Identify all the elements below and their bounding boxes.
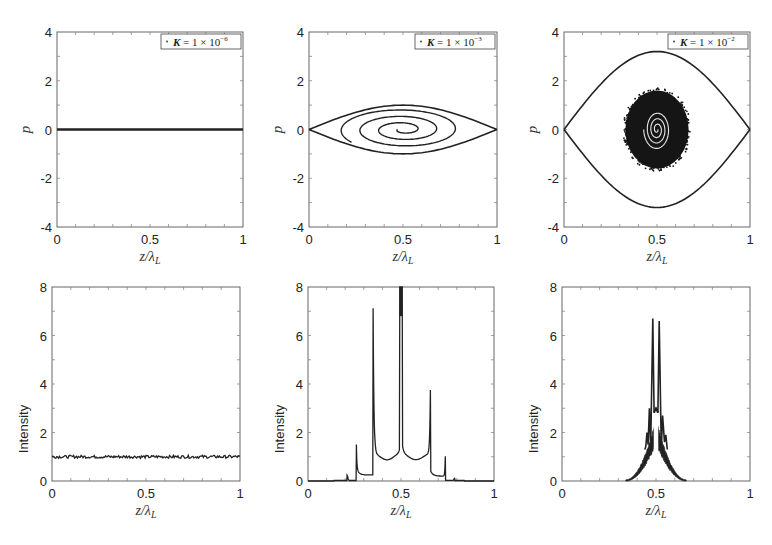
x-tick-label: 1 bbox=[746, 486, 753, 501]
figure: 00.51-4-2024z/λLpK = 1 × 10−600.51-4-202… bbox=[0, 0, 772, 545]
y-tick-label: 0 bbox=[297, 123, 304, 138]
x-tick-label: 1 bbox=[493, 232, 500, 247]
legend-marker-icon bbox=[166, 41, 168, 43]
y-tick-label: -2 bbox=[547, 171, 559, 186]
x-tick-label: 0 bbox=[48, 486, 55, 501]
y-axis-label: Intensity bbox=[526, 404, 541, 453]
y-tick-label: 0 bbox=[45, 123, 52, 138]
x-tick-label: 0.5 bbox=[392, 486, 410, 501]
panel-phase-k1e-2: 00.51-4-2024z/λLpK = 1 × 10−2 bbox=[524, 25, 754, 266]
x-tick-label: 0.5 bbox=[141, 232, 159, 247]
y-tick-label: 6 bbox=[550, 329, 557, 344]
y-tick-label: 8 bbox=[40, 280, 47, 295]
y-tick-label: -4 bbox=[40, 220, 52, 235]
x-tick-label: 0.5 bbox=[648, 232, 666, 247]
x-tick-label: 1 bbox=[239, 232, 246, 247]
legend: K = 1 × 10−2 bbox=[668, 34, 748, 49]
y-tick-label: 0 bbox=[40, 474, 47, 489]
panel-phase-k1e-3: 00.51-4-2024z/λLpK = 1 × 10−3 bbox=[269, 25, 501, 266]
legend: K = 1 × 10−3 bbox=[415, 34, 495, 49]
x-tick-label: 1 bbox=[236, 486, 243, 501]
y-axis-label: p bbox=[17, 125, 33, 134]
x-tick-label: 0 bbox=[558, 486, 565, 501]
x-tick-label: 1 bbox=[490, 486, 497, 501]
x-tick-label: 0.5 bbox=[647, 486, 665, 501]
panel-phase-k1e-6: 00.51-4-2024z/λLpK = 1 × 10−6 bbox=[17, 25, 247, 266]
x-axis-label: z/λL bbox=[646, 249, 668, 266]
y-tick-label: 2 bbox=[297, 74, 304, 89]
y-tick-label: 6 bbox=[40, 329, 47, 344]
y-tick-label: -2 bbox=[292, 171, 304, 186]
y-tick-label: -2 bbox=[40, 171, 52, 186]
y-tick-label: 4 bbox=[40, 377, 47, 392]
panel-intensity-k1e-6: 00.5102468z/λLIntensity bbox=[16, 280, 244, 520]
plot-frame bbox=[562, 287, 750, 481]
legend-marker-icon bbox=[673, 41, 675, 43]
panel-intensity-k1e-3: 00.5102468z/λLIntensity bbox=[272, 280, 498, 520]
y-tick-label: 4 bbox=[45, 25, 52, 40]
svg-text:K = 1 × 10−6: K = 1 × 10−6 bbox=[172, 35, 228, 48]
y-tick-label: 4 bbox=[297, 25, 304, 40]
x-tick-label: 0.5 bbox=[394, 232, 412, 247]
y-tick-label: 0 bbox=[550, 474, 557, 489]
x-tick-label: 0 bbox=[560, 232, 567, 247]
x-tick-label: 0.5 bbox=[137, 486, 155, 501]
x-tick-label: 0 bbox=[305, 232, 312, 247]
plot-frame bbox=[309, 32, 497, 227]
y-axis-label: p bbox=[269, 125, 285, 134]
y-tick-label: 4 bbox=[550, 377, 557, 392]
x-axis-label: z/λL bbox=[139, 249, 161, 266]
y-tick-label: -4 bbox=[547, 220, 559, 235]
x-tick-label: 1 bbox=[746, 232, 753, 247]
x-tick-label: 0 bbox=[304, 486, 311, 501]
y-tick-label: 2 bbox=[45, 74, 52, 89]
y-tick-label: 2 bbox=[40, 426, 47, 441]
y-tick-label: 6 bbox=[296, 329, 303, 344]
svg-text:K = 1 × 10−3: K = 1 × 10−3 bbox=[426, 35, 482, 48]
y-tick-label: 4 bbox=[552, 25, 559, 40]
y-tick-label: 8 bbox=[550, 280, 557, 295]
y-axis-label: p bbox=[524, 125, 540, 134]
plot-frame bbox=[52, 287, 240, 481]
panel-intensity-k1e-2: 00.5102468z/λLIntensity bbox=[526, 280, 754, 520]
x-axis-label: z/λL bbox=[390, 503, 412, 520]
central-spike bbox=[400, 287, 403, 316]
y-tick-label: 4 bbox=[296, 377, 303, 392]
y-tick-label: 0 bbox=[296, 474, 303, 489]
y-axis-label: Intensity bbox=[16, 404, 31, 453]
y-tick-label: 0 bbox=[552, 123, 559, 138]
y-tick-label: 2 bbox=[552, 74, 559, 89]
legend-marker-icon bbox=[420, 41, 422, 43]
x-axis-label: z/λL bbox=[645, 503, 667, 520]
y-tick-label: -4 bbox=[292, 220, 304, 235]
svg-text:K = 1 × 10−2: K = 1 × 10−2 bbox=[679, 35, 735, 48]
x-axis-label: z/λL bbox=[392, 249, 414, 266]
y-tick-label: 2 bbox=[550, 426, 557, 441]
y-tick-label: 8 bbox=[296, 280, 303, 295]
y-tick-label: 2 bbox=[296, 426, 303, 441]
y-axis-label: Intensity bbox=[272, 404, 287, 453]
legend: K = 1 × 10−6 bbox=[161, 34, 241, 49]
x-axis-label: z/λL bbox=[135, 503, 157, 520]
x-tick-label: 0 bbox=[53, 232, 60, 247]
